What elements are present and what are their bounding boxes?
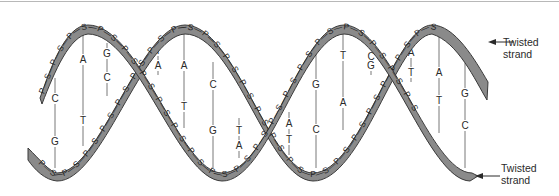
base-letter-top: A bbox=[286, 118, 293, 129]
base-letter-bottom: C bbox=[312, 124, 319, 135]
base-pair: TA bbox=[236, 118, 243, 158]
base-pair: CG bbox=[367, 51, 375, 75]
base-letter-top: A bbox=[80, 54, 87, 65]
base-letter-bottom: T bbox=[286, 134, 292, 145]
base-pair: AT bbox=[181, 28, 188, 128]
base-letter-top: G bbox=[312, 79, 320, 90]
base-pair: GC bbox=[103, 43, 111, 96]
base-letter-top: G bbox=[461, 88, 469, 99]
base-letter-bottom: A bbox=[155, 60, 162, 71]
base-pair: TA bbox=[340, 28, 347, 130]
base-letter-bottom: G bbox=[51, 136, 59, 147]
base-letter-top: G bbox=[103, 48, 111, 59]
base-letter-bottom: T bbox=[408, 67, 414, 78]
base-letter-bottom: T bbox=[80, 115, 86, 126]
label-top-line2: strand bbox=[503, 48, 539, 60]
base-letter-top: C bbox=[209, 79, 216, 90]
base-pair: CG bbox=[209, 62, 217, 168]
top-border-line bbox=[0, 1, 559, 2]
base-letter-top: C bbox=[51, 93, 58, 104]
base-pair: GC bbox=[461, 62, 469, 168]
label-bottom-twisted-strand: Twisted strand bbox=[501, 162, 537, 186]
label-top-twisted-strand: Twisted strand bbox=[503, 36, 539, 60]
base-letter-bottom: C bbox=[461, 120, 468, 131]
base-letter-bottom: G bbox=[367, 60, 375, 71]
arrow-bottom-head-icon bbox=[475, 173, 483, 179]
label-bottom-line1: Twisted bbox=[501, 162, 537, 174]
helix-svg: CGATGCTAATCGTAATGCTACGATATGC P—S—P—S—P—S… bbox=[0, 0, 559, 196]
base-letter-top: T bbox=[236, 125, 242, 136]
base-letter-bottom: A bbox=[236, 140, 243, 151]
base-pair: AT bbox=[80, 30, 87, 146]
base-letter-top: A bbox=[436, 67, 443, 78]
base-pair: GC bbox=[312, 52, 320, 168]
arrow-top-head-icon bbox=[488, 39, 496, 45]
dna-helix-diagram: CGATGCTAATCGTAATGCTACGATATGC P—S—P—S—P—S… bbox=[0, 0, 559, 196]
base-pair: AT bbox=[436, 28, 443, 133]
base-letter-bottom: A bbox=[340, 97, 347, 108]
base-letter-bottom: C bbox=[103, 72, 110, 83]
base-letter-bottom: T bbox=[181, 101, 187, 112]
label-top-line1: Twisted bbox=[503, 36, 539, 48]
arrow-bottom bbox=[475, 173, 500, 179]
strand-lower: P—S—P—S—P—S—P—S—P—S—P—S—P—S—P—S—P—S—P—S—… bbox=[28, 21, 488, 181]
strand-upper-labels: P—S—P—S—P—S—P—S—P—S—P—S—P—S—P—S—P—S—P—S—… bbox=[36, 21, 420, 179]
label-bottom-line2: strand bbox=[501, 174, 537, 186]
base-letter-top: A bbox=[181, 60, 188, 71]
base-letter-bottom: T bbox=[436, 95, 442, 106]
base-letter-bottom: G bbox=[209, 125, 217, 136]
strand-upper-sp-sequence: P—S—P—S—P—S—P—S—P—S—P—S—P—S—P—S—P—S—P—S—… bbox=[36, 21, 420, 179]
base-pair: CG bbox=[51, 78, 59, 168]
base-letter-top: T bbox=[340, 50, 346, 61]
